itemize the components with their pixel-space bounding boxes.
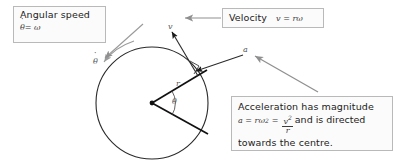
acceleration-formula: a = rω2 = v2 r and is directed [238,114,387,135]
fraction-numerator: v2 [282,115,292,126]
acceleration-formula-equals: = [272,116,279,126]
velocity-formula: v = rω [276,14,303,24]
acceleration-formula-lead: a = rω [238,116,265,126]
angle-label: θ [172,97,177,106]
acceleration-line-3: towards the centre. [238,137,387,149]
radius-lower-line [152,103,208,134]
acceleration-label: a [243,45,248,54]
radius-label: r [176,79,180,88]
angular-rate-label: θ [93,57,98,66]
leader-acceleration [255,56,318,92]
angular-speed-formula: θ= ω [20,23,100,33]
velocity-label: v [168,22,173,31]
callout-angular-speed: Angular speed θ= ω [13,6,106,43]
fraction-numerator-exponent: 2 [288,114,292,121]
callout-acceleration: Acceleration has magnitude a = rω2 = v2 … [231,96,393,151]
acceleration-formula-exponent: 2 [265,117,269,125]
acceleration-fraction: v2 r [282,115,292,136]
acceleration-line-1: Acceleration has magnitude [238,101,387,113]
velocity-label-text: Velocity [229,12,267,24]
velocity-vector [172,32,198,76]
callout-velocity: Velocity v = rω [222,8,324,28]
acceleration-line-2-tail: and is directed [295,114,366,126]
leader-angular-speed [105,24,143,58]
angular-speed-formula-rest: = ω [25,23,41,32]
acceleration-vector [196,55,243,71]
theta-dot-symbol: θ [20,23,25,33]
angular-speed-label: Angular speed [20,10,100,20]
fraction-denominator: r [282,127,292,135]
figure-canvas: v a r θ θ Angular speed θ= ω Velocity v … [0,0,401,163]
